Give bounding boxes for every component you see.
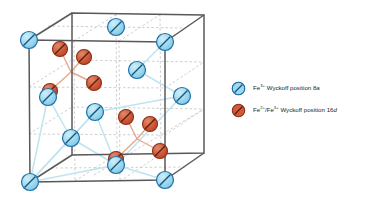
blue-slashed-circle-icon <box>231 81 246 96</box>
atom-16d <box>153 144 168 159</box>
atom-16d <box>77 50 92 65</box>
crystal-structure-illustration <box>0 0 231 199</box>
figure-root: Fe3+ Wyckoff position 8a Fe2+/Fe3+ Wycko… <box>0 0 391 199</box>
atom-8a <box>108 19 125 36</box>
legend-16d-text: Wyckoff position <box>279 106 327 113</box>
atom-8a <box>21 32 38 49</box>
atom-8a <box>157 172 174 189</box>
atom-8a <box>87 104 104 121</box>
legend-16d-site-letter: d <box>333 106 336 113</box>
legend-item-16d: Fe2+/Fe3+ Wyckoff position 16d <box>231 100 391 120</box>
atom-8a <box>22 174 39 191</box>
atom-8a <box>108 157 125 174</box>
legend: Fe3+ Wyckoff position 8a Fe2+/Fe3+ Wycko… <box>231 78 391 122</box>
atom-8a <box>157 34 174 51</box>
blue-bond-network <box>30 42 182 182</box>
atom-8a <box>129 62 146 79</box>
legend-item-8a: Fe3+ Wyckoff position 8a <box>231 78 391 98</box>
atom-8a <box>174 88 191 105</box>
atom-16d <box>119 110 134 125</box>
atom-8a <box>63 130 80 147</box>
atom-16d <box>53 42 68 57</box>
atom-16d <box>143 117 158 132</box>
legend-8a-site-letter: a <box>316 84 319 91</box>
legend-label-16d: Fe2+/Fe3+ Wyckoff position 16d <box>253 107 337 113</box>
legend-8a-text: Wyckoff position <box>265 84 313 91</box>
red-slashed-circle-icon <box>231 103 246 118</box>
legend-16d-species-b: /Fe <box>265 106 274 113</box>
atom-8a <box>40 89 57 106</box>
atom-16d <box>87 76 102 91</box>
legend-label-8a: Fe3+ Wyckoff position 8a <box>253 85 320 91</box>
